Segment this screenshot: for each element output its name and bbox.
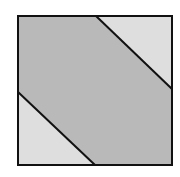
square-diagram — [0, 0, 180, 177]
